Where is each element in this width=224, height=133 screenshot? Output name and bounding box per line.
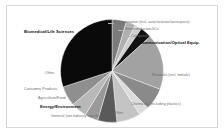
pie-label-computers: Computers	[131, 34, 149, 38]
pie-plot-area: Transportation (incl. auto/aviation/aero…	[0, 0, 224, 133]
pie-label-general: General (not industry specific)	[51, 114, 101, 118]
chart-figure: Transportation (incl. auto/aviation/aero…	[0, 0, 224, 133]
pie-label-transportation: Transportation (incl. auto/aviation/aero…	[114, 20, 190, 24]
leader-line-semiconductors	[118, 30, 124, 31]
pie-label-consumer: Consumer Products	[24, 87, 57, 91]
pie-label-communication: Communication/Optical Equip.	[139, 41, 200, 46]
pie-label-energy: Energy/Environment	[40, 105, 81, 110]
pie-label-other-bottom: Other	[114, 111, 123, 115]
leader-line-computers	[125, 36, 130, 37]
pie-label-agriculture: Agriculture/Food	[38, 96, 66, 100]
pie-label-chemicals: Chemicals (including plastics)	[131, 102, 181, 106]
pie-label-biomedical: Biomedical/Life Sciences	[24, 30, 74, 35]
pie-label-other-left: Other	[45, 71, 54, 75]
pie-label-materials: Materials (incl. metals)	[152, 73, 190, 77]
pie-label-semiconductors: Semiconductors/ICs	[125, 27, 159, 31]
